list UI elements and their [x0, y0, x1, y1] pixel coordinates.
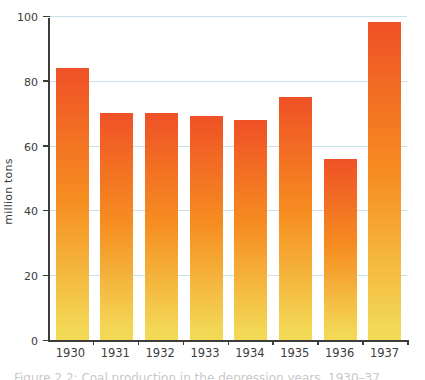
x-label-1933: 1933 [183, 346, 228, 360]
x-label-1932: 1932 [138, 346, 183, 360]
bar-1936 [324, 159, 357, 340]
bar-1931 [100, 113, 133, 340]
gridline-100 [50, 16, 407, 17]
x-label-1931: 1931 [93, 346, 138, 360]
x-label-1930: 1930 [48, 346, 93, 360]
x-tick-1930 [93, 340, 95, 345]
x-tick-1937 [407, 340, 409, 345]
x-tick-1935 [317, 340, 319, 345]
bar-1932 [145, 113, 178, 340]
bar-slot-1935 [273, 97, 318, 340]
bar-slot-1936 [318, 159, 363, 340]
y-tick-20 [43, 275, 50, 277]
x-label-1934: 1934 [228, 346, 273, 360]
bar-1935 [279, 97, 312, 340]
y-tick-100 [43, 16, 50, 18]
x-label-1936: 1936 [317, 346, 362, 360]
x-label-1935: 1935 [272, 346, 317, 360]
x-tick-1931 [138, 340, 140, 345]
y-tick-label-20: 20 [8, 270, 38, 283]
bar-chart-figure: million tons 020406080100 19301931193219… [0, 0, 425, 380]
plot-area: 020406080100 [48, 18, 407, 342]
y-tick-60 [43, 145, 50, 147]
y-tick-80 [43, 80, 50, 82]
y-tick-label-100: 100 [8, 11, 38, 24]
bar-1934 [234, 120, 267, 340]
bar-1930 [56, 68, 89, 340]
y-tick-label-40: 40 [8, 205, 38, 218]
y-axis-title: million tons [2, 147, 15, 237]
bar-slot-1934 [229, 120, 274, 340]
y-tick-label-80: 80 [8, 76, 38, 89]
bar-slot-1933 [184, 116, 229, 340]
bar-slot-1937 [362, 22, 407, 340]
x-tick-1932 [183, 340, 185, 345]
bar-1933 [190, 116, 223, 340]
y-tick-label-60: 60 [8, 141, 38, 154]
x-tick-1934 [272, 340, 274, 345]
bar-1937 [368, 22, 401, 340]
figure-caption: Figure 2.2: Coal production in the depre… [14, 371, 414, 380]
bar-slot-1931 [95, 113, 140, 340]
bar-slot-1930 [50, 68, 95, 340]
x-label-1937: 1937 [362, 346, 407, 360]
bar-slot-1932 [139, 113, 184, 340]
y-tick-0 [43, 340, 50, 342]
x-axis-labels: 19301931193219331934193519361937 [48, 346, 407, 360]
x-tick-1933 [228, 340, 230, 345]
y-tick-40 [43, 210, 50, 212]
y-tick-label-0: 0 [8, 335, 38, 348]
bars-container [50, 18, 407, 340]
x-tick-1936 [362, 340, 364, 345]
